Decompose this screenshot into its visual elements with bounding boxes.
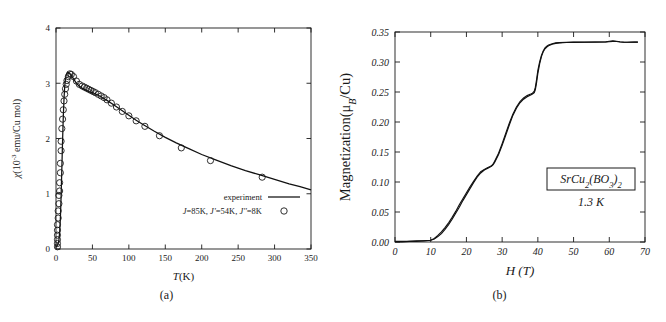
x-tick-label: 50	[569, 246, 579, 257]
y-tick-label: 0	[46, 244, 51, 254]
x-tick-label: 350	[304, 253, 318, 263]
chart-b-magnetization: 0102030405060700.000.050.100.150.200.250…	[333, 0, 666, 290]
y-tick-label: 2	[46, 134, 51, 144]
x-tick-label: 100	[122, 253, 136, 263]
y-axis-title: Magnetization(μB/Cu)	[337, 73, 358, 201]
x-tick-label: 0	[393, 246, 398, 257]
panel-a: 05010015020025030035001234T(K)χ(10-3 emu…	[0, 0, 333, 322]
legend-label-theory: J=85K, J'=54K, J''=8K	[183, 206, 263, 216]
y-tick-label: 0.10	[372, 177, 390, 188]
y-tick-label: 0.25	[372, 87, 390, 98]
y-tick-label: 4	[46, 23, 51, 33]
x-tick-label: 20	[461, 246, 471, 257]
panel-b: 0102030405060700.000.050.100.150.200.250…	[333, 0, 666, 322]
y-axis-title: χ(10-3 emu/Cu mol)	[10, 99, 23, 179]
x-tick-label: 300	[268, 253, 282, 263]
figure-container: 05010015020025030035001234T(K)χ(10-3 emu…	[0, 0, 666, 322]
x-tick-label: 30	[496, 246, 507, 257]
x-tick-label: 40	[533, 246, 543, 257]
y-tick-label: 0.00	[372, 237, 390, 248]
y-tick-label: 0.20	[372, 117, 390, 128]
x-tick-label: 150	[159, 253, 173, 263]
x-tick-label: 10	[426, 246, 436, 257]
x-axis-title: H (T)	[505, 263, 535, 278]
y-tick-label: 0.05	[372, 207, 390, 218]
x-tick-label: 200	[195, 253, 209, 263]
y-tick-label: 1	[46, 189, 51, 199]
x-tick-label: 60	[604, 246, 614, 257]
x-tick-label: 0	[54, 253, 59, 263]
x-tick-label: 70	[640, 246, 650, 257]
y-tick-label: 0.30	[372, 57, 390, 68]
x-tick-label: 50	[88, 253, 98, 263]
panel-b-caption: (b)	[333, 288, 666, 303]
y-tick-label: 3	[46, 79, 51, 89]
legend-label-experiment: experiment	[224, 192, 263, 202]
x-tick-label: 250	[231, 253, 245, 263]
panel-a-caption: (a)	[0, 288, 333, 303]
x-axis-title: T(K)	[173, 270, 195, 283]
chart-a-susceptibility: 05010015020025030035001234T(K)χ(10-3 emu…	[0, 0, 333, 290]
temperature-label: 1.3 K	[578, 195, 605, 209]
plot-frame	[395, 32, 645, 242]
y-tick-label: 0.35	[372, 27, 390, 38]
y-tick-label: 0.15	[372, 147, 390, 158]
